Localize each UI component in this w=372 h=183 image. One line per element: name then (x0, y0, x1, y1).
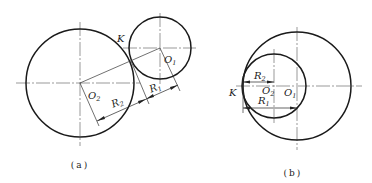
arrow-r2-b-right-icon (267, 81, 274, 84)
label-r1-a: R1 (147, 80, 164, 97)
label-r1-b: R1 (257, 95, 270, 108)
caption-b: (b) (284, 168, 303, 178)
label-o2-a: O2 (88, 90, 100, 103)
arrow-r2-end-icon (138, 99, 146, 104)
diagram-a: K O1 O2 R2 R1 (a) (16, 13, 196, 170)
label-k-b: K (228, 87, 237, 98)
dimension-line-r2-r1 (97, 85, 178, 121)
label-r2-b: R2 (253, 70, 266, 83)
caption-a: (a) (71, 160, 89, 170)
label-o1-a: O1 (164, 54, 176, 67)
arrow-r1-end-icon (170, 85, 178, 90)
arrow-r1-start-icon (146, 94, 154, 99)
diagram-b: R2 K O2 R1 O1 (b) (228, 27, 362, 178)
tangent-circles-figure: K O1 O2 R2 R1 (a) R2 K O2 R1 O1 (b) (0, 0, 372, 183)
arrow-r2-start-icon (97, 116, 105, 121)
label-o1-b: O1 (284, 87, 296, 100)
label-k-a: K (116, 33, 125, 44)
line-of-centers (80, 48, 160, 83)
arrow-r2-b-left-icon (243, 81, 250, 84)
